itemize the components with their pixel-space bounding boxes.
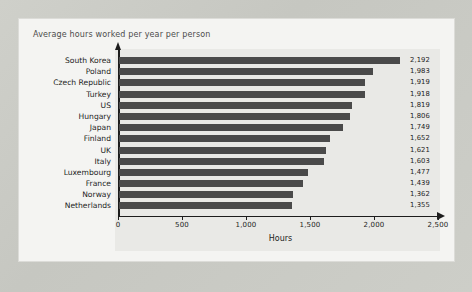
bar bbox=[119, 124, 343, 131]
x-axis-tick bbox=[182, 217, 183, 220]
bar-value-label: 2,192 bbox=[410, 55, 430, 66]
bar-row: Finland1,652 bbox=[19, 133, 456, 144]
bar-value-label: 1,919 bbox=[410, 77, 430, 88]
bar-value-label: 1,355 bbox=[410, 200, 430, 211]
x-axis-tick-label: 2,500 bbox=[427, 221, 448, 229]
bar-track: 1,983 bbox=[119, 66, 444, 77]
bar bbox=[119, 180, 303, 187]
bar bbox=[119, 135, 330, 142]
x-axis-tick bbox=[310, 217, 311, 220]
bar-category-label: France bbox=[19, 178, 115, 189]
x-axis-title: Hours bbox=[118, 234, 443, 243]
bar-category-label: Turkey bbox=[19, 89, 115, 100]
bar-track: 1,355 bbox=[119, 200, 444, 211]
bar-value-label: 1,749 bbox=[410, 122, 430, 133]
bar-category-label: Finland bbox=[19, 133, 115, 144]
bar bbox=[119, 91, 365, 98]
bar-row: Japan1,749 bbox=[19, 122, 456, 133]
x-axis-tick-label: 0 bbox=[116, 221, 121, 229]
bar-row: Czech Republic1,919 bbox=[19, 77, 456, 88]
bar-track: 1,439 bbox=[119, 178, 444, 189]
bar-category-label: Japan bbox=[19, 122, 115, 133]
bar-value-label: 1,603 bbox=[410, 156, 430, 167]
bar-category-label: US bbox=[19, 100, 115, 111]
bar-track: 1,819 bbox=[119, 100, 444, 111]
bar bbox=[119, 158, 324, 165]
bar-track: 1,806 bbox=[119, 111, 444, 122]
bar-category-label: UK bbox=[19, 145, 115, 156]
bar-row: US1,819 bbox=[19, 100, 456, 111]
bar bbox=[119, 68, 373, 75]
chart-card: Average hours worked per year per person… bbox=[18, 18, 455, 262]
bar-row: Italy1,603 bbox=[19, 156, 456, 167]
bar-value-label: 1,621 bbox=[410, 145, 430, 156]
bar bbox=[119, 202, 292, 209]
bar-category-label: Czech Republic bbox=[19, 77, 115, 88]
x-axis-tick bbox=[118, 217, 119, 220]
bar-category-label: Poland bbox=[19, 66, 115, 77]
bar bbox=[119, 191, 293, 198]
bar bbox=[119, 102, 352, 109]
bar-row: Netherlands1,355 bbox=[19, 200, 456, 211]
bar-row: UK1,621 bbox=[19, 145, 456, 156]
bar-track: 1,621 bbox=[119, 145, 444, 156]
bar-track: 1,919 bbox=[119, 77, 444, 88]
x-axis-tick-label: 2,000 bbox=[363, 221, 384, 229]
bar-chart: South Korea2,192Poland1,983Czech Republi… bbox=[19, 19, 456, 263]
bar-rows: South Korea2,192Poland1,983Czech Republi… bbox=[19, 55, 456, 212]
bar bbox=[119, 79, 365, 86]
bar-category-label: Netherlands bbox=[19, 200, 115, 211]
bar-value-label: 1,652 bbox=[410, 133, 430, 144]
bar-value-label: 1,477 bbox=[410, 167, 430, 178]
bar bbox=[119, 147, 326, 154]
bar-value-label: 1,983 bbox=[410, 66, 430, 77]
bar bbox=[119, 113, 350, 120]
bar-row: France1,439 bbox=[19, 178, 456, 189]
bar-value-label: 1,819 bbox=[410, 100, 430, 111]
x-axis-tick-label: 1,500 bbox=[299, 221, 320, 229]
bar bbox=[119, 57, 400, 64]
x-axis-tick bbox=[438, 217, 439, 220]
bar-row: Luxembourg1,477 bbox=[19, 167, 456, 178]
bar-category-label: Italy bbox=[19, 156, 115, 167]
bar-category-label: South Korea bbox=[19, 55, 115, 66]
bar-track: 1,749 bbox=[119, 122, 444, 133]
x-axis-tick-label: 500 bbox=[175, 221, 189, 229]
x-axis-tick bbox=[374, 217, 375, 220]
bar-track: 1,603 bbox=[119, 156, 444, 167]
bar-track: 1,918 bbox=[119, 89, 444, 100]
x-axis-tick-label: 1,000 bbox=[235, 221, 256, 229]
bar-row: Turkey1,918 bbox=[19, 89, 456, 100]
bar-track: 1,652 bbox=[119, 133, 444, 144]
bar-category-label: Hungary bbox=[19, 111, 115, 122]
bar-category-label: Norway bbox=[19, 189, 115, 200]
x-axis-tick bbox=[246, 217, 247, 220]
bar-track: 1,362 bbox=[119, 189, 444, 200]
bar-value-label: 1,806 bbox=[410, 111, 430, 122]
bar bbox=[119, 169, 308, 176]
bar-value-label: 1,439 bbox=[410, 178, 430, 189]
bar-row: Norway1,362 bbox=[19, 189, 456, 200]
bar-row: South Korea2,192 bbox=[19, 55, 456, 66]
bar-track: 2,192 bbox=[119, 55, 444, 66]
bar-track: 1,477 bbox=[119, 167, 444, 178]
bar-category-label: Luxembourg bbox=[19, 167, 115, 178]
bar-value-label: 1,362 bbox=[410, 189, 430, 200]
bar-value-label: 1,918 bbox=[410, 89, 430, 100]
bar-row: Poland1,983 bbox=[19, 66, 456, 77]
bar-row: Hungary1,806 bbox=[19, 111, 456, 122]
x-axis-line bbox=[118, 216, 438, 218]
